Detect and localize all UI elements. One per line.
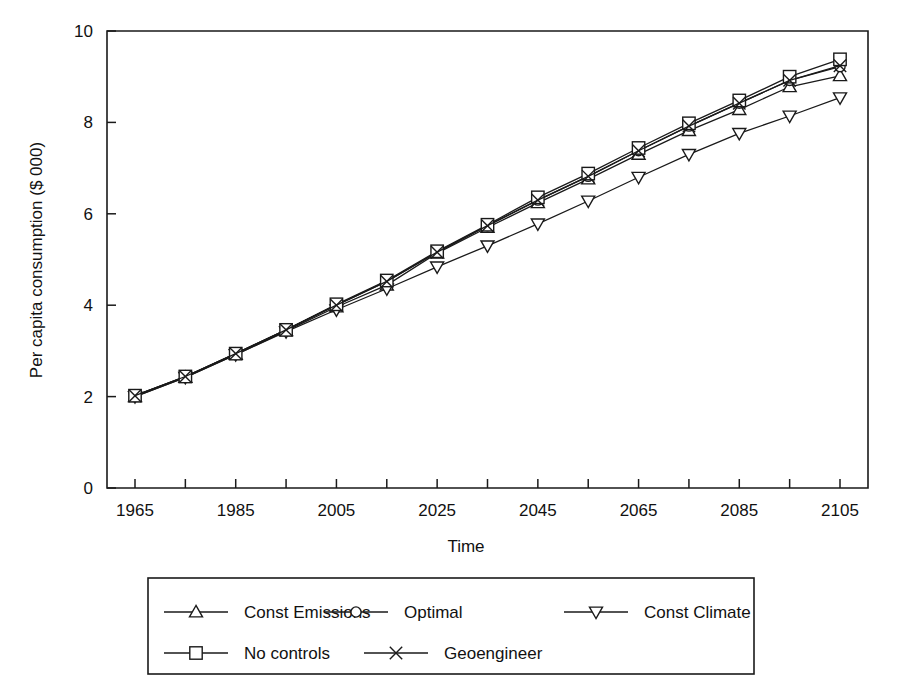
legend-label: No controls — [244, 644, 330, 663]
y-tick-label: 0 — [84, 479, 93, 498]
x-tick-label: 1965 — [116, 501, 154, 520]
y-tick-label: 10 — [74, 22, 93, 41]
x-tick-label: 2065 — [620, 501, 658, 520]
per-capita-consumption-line-chart: 0246810 19651985200520252045206520852105… — [0, 0, 903, 699]
chart-legend: Const EmissionsOptimalConst ClimateNo co… — [148, 578, 754, 674]
legend-label: Optimal — [404, 603, 463, 622]
y-tick-label: 8 — [84, 113, 93, 132]
y-tick-label: 2 — [84, 388, 93, 407]
legend-label: Const Climate — [644, 603, 751, 622]
y-tick-label: 4 — [84, 296, 93, 315]
marker-circle — [351, 607, 361, 617]
x-tick-label: 2105 — [821, 501, 859, 520]
y-axis-title: Per capita consumption ($ 000) — [27, 142, 46, 378]
x-tick-label: 2005 — [318, 501, 356, 520]
x-axis-title: Time — [447, 537, 484, 556]
legend-label: Geoengineer — [444, 644, 543, 663]
chart-figure: 0246810 19651985200520252045206520852105… — [0, 0, 903, 699]
marker-square — [834, 53, 846, 65]
x-tick-label: 1985 — [217, 501, 255, 520]
x-tick-label: 2085 — [720, 501, 758, 520]
x-tick-label: 2045 — [519, 501, 557, 520]
y-tick-label: 6 — [84, 205, 93, 224]
x-tick-label: 2025 — [418, 501, 456, 520]
marker-square — [190, 647, 202, 659]
